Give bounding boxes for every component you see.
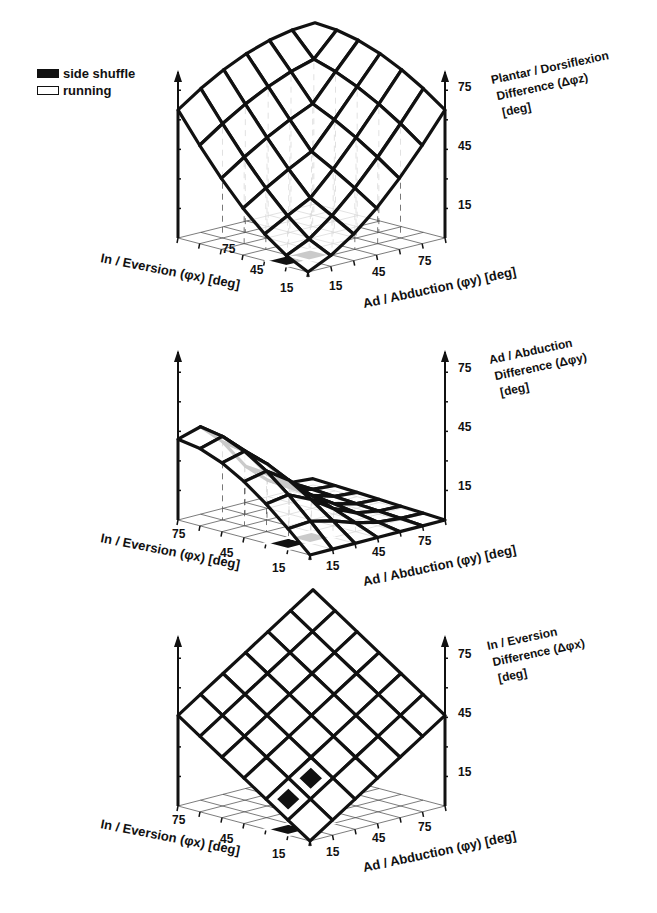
y-tick-75: 75 bbox=[418, 254, 432, 268]
y-tick-45: 45 bbox=[372, 545, 386, 559]
y-tick-15: 15 bbox=[326, 845, 340, 859]
z-tick-75: 75 bbox=[458, 80, 472, 94]
z-tick-75: 75 bbox=[458, 647, 472, 661]
z-tick-15: 15 bbox=[458, 198, 472, 212]
y-tick-15: 15 bbox=[326, 559, 340, 573]
x-tick-15: 15 bbox=[280, 281, 294, 295]
panel-in-eversion bbox=[174, 590, 449, 846]
z-tick-45: 45 bbox=[458, 706, 472, 720]
y-tick-45: 45 bbox=[372, 265, 386, 279]
y-tick-15: 15 bbox=[329, 279, 343, 293]
z-label-line3: [deg] bbox=[499, 380, 531, 400]
x-tick-75: 75 bbox=[172, 813, 186, 827]
z-tick-15: 15 bbox=[458, 479, 472, 493]
z-tick-45: 45 bbox=[458, 420, 472, 434]
z-axis-label: In / Eversion Difference (Δφx) [deg] bbox=[486, 619, 590, 686]
x-tick-15: 15 bbox=[272, 847, 286, 861]
z-label-line3: [deg] bbox=[501, 100, 533, 120]
x-axis-label: In / Eversion (φx) [deg] bbox=[99, 250, 241, 292]
y-tick-75: 75 bbox=[418, 534, 432, 548]
y-tick-75: 75 bbox=[418, 820, 432, 834]
panel-ad-abduction bbox=[174, 350, 449, 560]
z-tick-15: 15 bbox=[458, 765, 472, 779]
x-tick-75: 75 bbox=[172, 527, 186, 541]
z-tick-45: 45 bbox=[458, 139, 472, 153]
z-tick-75: 75 bbox=[458, 361, 472, 375]
y-tick-45: 45 bbox=[372, 831, 386, 845]
figure-canvas: 75 45 15 In / Eversion (φx) [deg] 15 45 … bbox=[0, 0, 657, 913]
x-tick-75: 75 bbox=[222, 242, 236, 256]
x-tick-15: 15 bbox=[272, 561, 286, 575]
x-tick-45: 45 bbox=[250, 263, 264, 277]
panel-plantar-dorsiflexion bbox=[174, 23, 449, 277]
z-axis-label: Ad / Abduction Difference (Δφy) [deg] bbox=[488, 333, 592, 400]
z-label-line3: [deg] bbox=[497, 666, 529, 686]
z-axis-label: Plantar / Dorsiflexion Difference (Δφz) … bbox=[490, 48, 617, 120]
